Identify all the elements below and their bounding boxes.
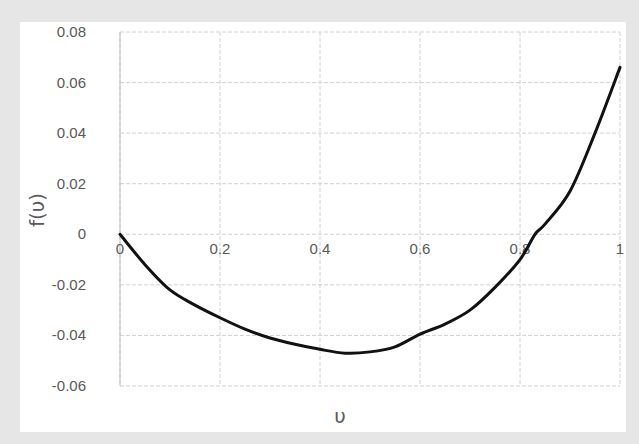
gridlines: [120, 32, 620, 386]
y-tick-label: 0: [78, 225, 86, 242]
y-tick-label: -0.06: [52, 377, 86, 394]
data-series-line: [120, 67, 620, 353]
line-chart: 0.080.060.040.020-0.02-0.04-0.06 00.20.4…: [0, 0, 639, 444]
x-tick-label: 0.2: [210, 240, 231, 257]
y-tick-label: -0.02: [52, 276, 86, 293]
x-tick-label: 0: [116, 240, 124, 257]
y-axis-ticks: 0.080.060.040.020-0.02-0.04-0.06: [52, 23, 86, 394]
x-tick-label: 0.6: [410, 240, 431, 257]
x-tick-label: 0.4: [310, 240, 331, 257]
x-axis-title: υ: [334, 404, 346, 428]
y-tick-label: 0.04: [57, 124, 86, 141]
x-tick-label: 1: [616, 240, 624, 257]
y-axis-title: f(υ): [25, 193, 49, 227]
y-tick-label: 0.06: [57, 74, 86, 91]
y-tick-label: 0.02: [57, 175, 86, 192]
y-tick-label: 0.08: [57, 23, 86, 40]
x-axis-ticks: 00.20.40.60.81: [116, 240, 624, 257]
y-tick-label: -0.04: [52, 326, 86, 343]
